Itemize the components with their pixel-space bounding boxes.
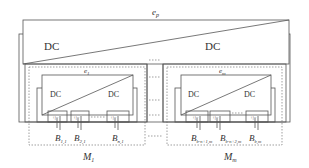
module-1: e1 DC DC +|− +|− +|− B1,1 B2,1 Bn,1 M1 [25,64,147,163]
battery-icon: +|− [212,115,220,130]
battery-label: Bn,1 [112,133,124,145]
module-m: em DC DC +|− +|− +|− Bb-n+1,m Bb-n+2,m B… [163,64,286,163]
module-m-dc-right: DC [244,90,255,99]
svg-text:+|−: +|− [212,115,219,120]
module-1-dc-left: DC [50,90,61,99]
top-converter-label: ep [152,7,159,18]
module-m-name: Mm [223,151,237,163]
module-m-dc-left: DC [188,90,199,99]
svg-text:+|−: +|− [52,115,59,120]
battery-label: Bb,m [249,133,262,145]
svg-text:+|−: +|− [110,115,117,120]
battery-system-diagram: ep DC DC e1 DC DC +|− +|− [0,0,309,168]
top-converter-dc-left: DC [44,40,59,52]
battery-icon: +|− [73,115,81,130]
battery-label: Bb-n+1,m [191,133,213,145]
svg-text:+|−: +|− [192,115,199,120]
battery-icon: +|− [250,115,258,130]
battery-icon: +|− [192,115,200,130]
top-converter-dc-right: DC [205,40,220,52]
battery-icon: +|− [52,115,60,130]
battery-icon: +|− [110,115,118,130]
module-1-name: M1 [82,151,94,163]
svg-text:+|−: +|− [250,115,257,120]
battery-label: B1,1 [55,133,67,145]
battery-label: Bb-n+2,m [220,133,242,145]
module-1-dc-right: DC [108,90,119,99]
svg-text:+|−: +|− [73,115,80,120]
battery-label: B2,1 [74,133,86,145]
